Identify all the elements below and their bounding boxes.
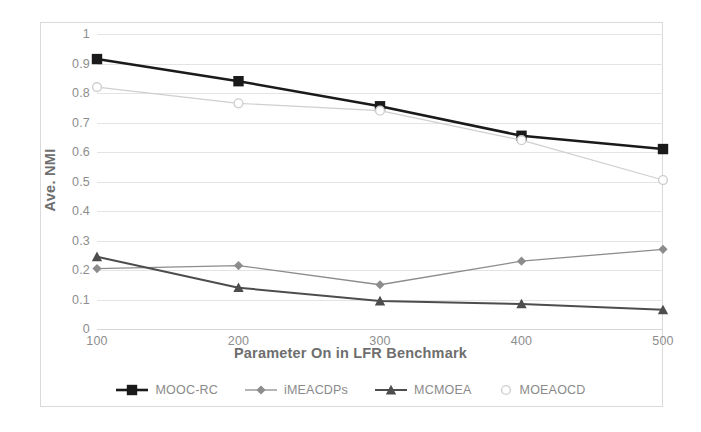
x-tick-label: 500 <box>652 334 673 348</box>
data-point-marker <box>234 99 243 108</box>
x-tick-label: 300 <box>369 334 390 348</box>
legend-item-mooc-rc[interactable]: MOOC-RC <box>115 383 218 397</box>
legend-label: iMEACDPs <box>284 383 348 397</box>
legend-label: MOOC-RC <box>155 383 218 397</box>
data-point-marker <box>92 54 102 64</box>
data-point-marker <box>501 386 510 395</box>
y-axis-title: Ave. NMI <box>42 148 58 211</box>
y-tick-label: 0.5 <box>72 175 90 189</box>
legend-item-mcmoea[interactable]: MCMOEA <box>374 383 471 397</box>
data-point-marker <box>658 144 668 154</box>
data-point-marker <box>658 245 667 254</box>
y-tick-label: 0.8 <box>72 86 90 100</box>
triangle-marker-icon <box>374 383 408 397</box>
data-point-marker <box>234 261 243 270</box>
series-imeacdps <box>92 245 667 290</box>
y-tick-label: 0.3 <box>72 234 90 248</box>
data-point-marker <box>517 136 526 145</box>
x-tick-label: 400 <box>511 334 532 348</box>
y-tick-label: 0.1 <box>72 293 90 307</box>
data-point-marker <box>375 280 384 289</box>
chart-container: Ave. NMI Parameter On in LFR Benchmark 0… <box>0 0 701 432</box>
y-tick-label: 0.4 <box>72 204 90 218</box>
data-point-marker <box>233 76 243 86</box>
square-marker-icon <box>115 383 149 397</box>
y-tick-label: 0.6 <box>72 145 90 159</box>
legend-item-imeacdps[interactable]: iMEACDPs <box>244 383 348 397</box>
x-tick-label: 100 <box>86 334 107 348</box>
diamond-marker-icon <box>244 383 278 397</box>
data-point-marker <box>127 385 137 395</box>
series-plot-layer <box>97 34 663 329</box>
data-point-marker <box>376 106 385 115</box>
series-moeaocd <box>93 83 668 185</box>
y-tick-label: 0.2 <box>72 263 90 277</box>
y-tick-label: 0.7 <box>72 116 90 130</box>
x-tick-label: 200 <box>228 334 249 348</box>
data-point-marker <box>659 176 668 185</box>
series-line <box>97 87 663 180</box>
gridline <box>97 329 663 330</box>
y-tick-label: 1 <box>83 27 90 41</box>
legend-label: MCMOEA <box>414 383 471 397</box>
series-mooc-rc <box>92 54 668 154</box>
data-point-marker <box>256 385 265 394</box>
legend-label: MOEAOCD <box>520 383 586 397</box>
y-tick-label: 0.9 <box>72 57 90 71</box>
data-point-marker <box>93 83 102 92</box>
data-point-marker <box>517 257 526 266</box>
chart-legend: MOOC-RCiMEACDPsMCMOEAMOEAOCD <box>0 383 701 397</box>
circle-marker-icon <box>498 383 514 397</box>
plot-area: 00.10.20.30.40.50.60.70.80.91 1002003004… <box>97 34 663 329</box>
series-line <box>97 249 663 284</box>
legend-item-moeaocd[interactable]: MOEAOCD <box>498 383 586 397</box>
